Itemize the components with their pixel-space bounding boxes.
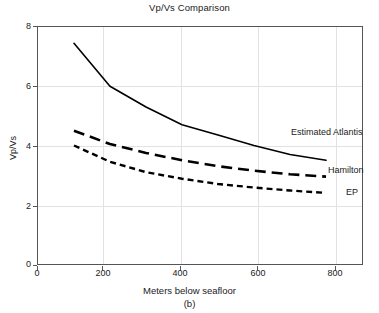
xtick-label-600: 600 xyxy=(238,268,278,278)
ytick-mark-4 xyxy=(33,146,37,147)
series-label-ep: EP xyxy=(346,187,358,197)
ytick-mark-8 xyxy=(33,26,37,27)
xtick-label-400: 400 xyxy=(160,268,200,278)
ytick-label-8: 8 xyxy=(1,21,31,31)
figure-container: Vp/Vs Comparison Estimated Atlantis Hami… xyxy=(0,0,379,313)
series-line-estimated-atlantis xyxy=(74,43,326,160)
chart-title: Vp/Vs Comparison xyxy=(0,2,379,13)
series-curves xyxy=(38,27,362,264)
series-line-ep xyxy=(74,146,326,193)
xtick-label-800: 800 xyxy=(315,268,355,278)
y-axis-title: Vp/Vs xyxy=(8,136,18,160)
ytick-label-2: 2 xyxy=(1,201,31,211)
x-axis-title: Meters below seafloor xyxy=(0,285,379,296)
ytick-mark-6 xyxy=(33,86,37,87)
ytick-label-6: 6 xyxy=(1,81,31,91)
ytick-mark-2 xyxy=(33,206,37,207)
xtick-label-0: 0 xyxy=(17,268,57,278)
xtick-label-200: 200 xyxy=(83,268,123,278)
series-label-hamilton: Hamilton xyxy=(328,165,364,175)
sub-caption: (b) xyxy=(0,298,379,309)
series-label-estimated-atlantis: Estimated Atlantis xyxy=(291,127,363,137)
plot-area: Estimated Atlantis Hamilton EP xyxy=(37,26,363,265)
